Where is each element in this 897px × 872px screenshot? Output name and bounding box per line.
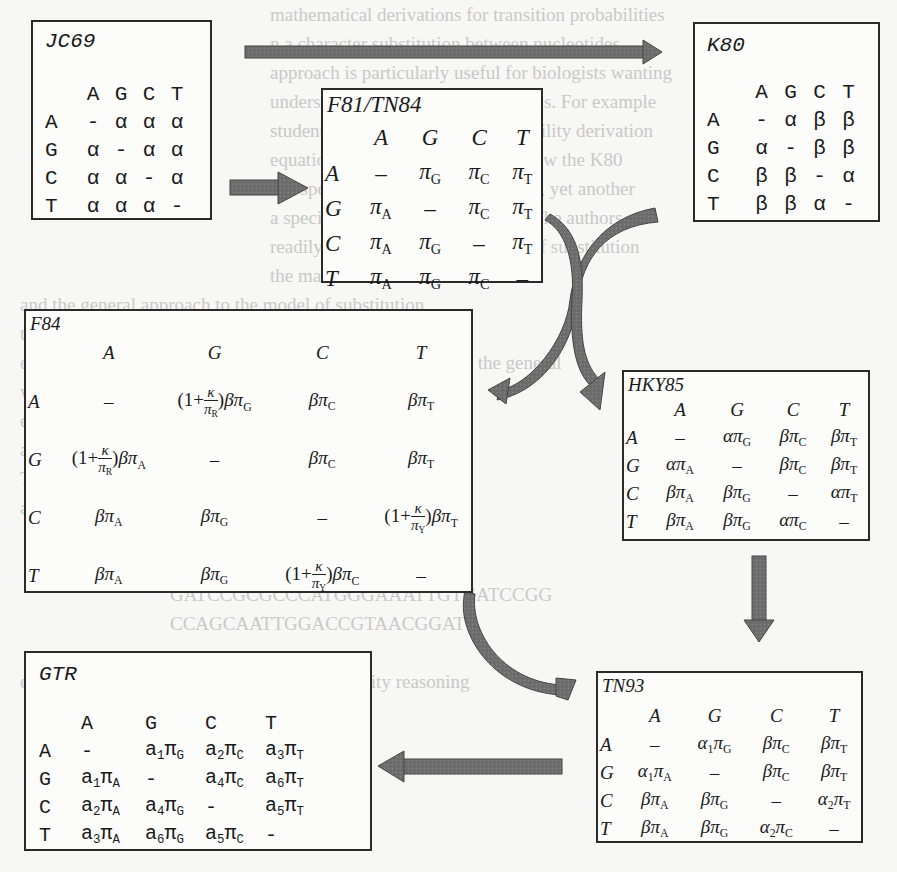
matrix-cell: βπA [652,508,708,536]
matrix-cell: – [708,452,766,480]
matrix-cell: – [273,489,371,547]
matrix-cell: πC [455,156,504,191]
matrix-cell: α [747,134,776,162]
matrix-cell: βπA [62,489,156,547]
matrix-cell: α2πT [807,787,861,815]
col-header: A [81,709,145,737]
matrix-cell: (1+κπY)βπT [371,489,471,547]
matrix-title: F81/TN84 [327,92,422,118]
matrix-cell: πC [455,191,504,226]
matrix-cell: – [626,731,684,759]
row-header: G [45,136,79,164]
matrix-cell: πG [406,156,455,191]
row-header: G [707,134,747,162]
row-header: G [28,431,62,489]
matrix-cell: a4πC [205,765,265,793]
matrix-cell: βπC [766,424,820,452]
matrix-cell: – [62,373,156,431]
col-header: A [652,396,708,424]
matrix-cell: a2πA [81,793,145,821]
matrix-cell: - [79,108,107,136]
row-header: C [707,162,747,190]
matrix-cell: α [107,108,135,136]
matrix-cell: βπT [820,452,868,480]
matrix-cell: βπA [652,480,708,508]
col-header: T [820,396,868,424]
col-header: G [708,396,766,424]
matrix-cell: - [145,765,205,793]
row-header: T [28,547,62,605]
row-header: T [45,192,79,220]
matrix-cell: β [805,134,834,162]
arrow-hky85-to-tn93 [744,556,774,642]
matrix-cell: βπG [156,547,274,605]
row-header: G [39,765,81,793]
row-header: G [600,759,626,787]
matrix-box-hky85: HKY85 A G C T A – απG βπC βπT G απA – βπ… [622,370,870,541]
matrix-cell: α [79,192,107,220]
matrix-cell: βπT [820,424,868,452]
col-header: G [776,78,805,106]
row-header: A [707,106,747,134]
col-header: C [205,709,265,737]
matrix-cell: βπC [766,452,820,480]
col-header: A [626,701,684,731]
matrix-box-jc69: JC69 A G C T A - α α α G α - α α C α α -… [31,20,212,220]
matrix-cell: α [834,162,863,190]
matrix-cell: α [107,192,135,220]
arrow-jc69-to-k80 [245,40,662,64]
col-header: C [455,120,504,156]
matrix-cell: a6πG [145,821,205,849]
matrix-cell: a6πT [265,765,325,793]
matrix-cell: απC [766,508,820,536]
matrix-box-f84: F84 A G C T A – (1+κπR)βπG βπC βπT G (1+… [24,309,473,593]
matrix-title: F84 [30,313,61,335]
rate-matrix: A G C T A - a1πG a2πC a3πT G a1πA - a4πC… [39,709,325,849]
matrix-cell: πC [455,261,504,296]
col-header: T [265,709,325,737]
row-header: A [600,731,626,759]
matrix-cell: - [834,190,863,218]
col-header: A [747,78,776,106]
matrix-cell: βπT [807,731,861,759]
matrix-cell: a3πA [81,821,145,849]
matrix-cell: απA [652,452,708,480]
matrix-cell: α [79,164,107,192]
col-header: G [156,333,274,373]
matrix-title: TN93 [602,675,644,697]
matrix-cell: α [135,108,163,136]
col-header: C [135,80,163,108]
matrix-cell: βπT [807,759,861,787]
matrix-cell: πG [406,261,455,296]
matrix-cell: α2πC [745,815,807,843]
matrix-cell: πT [504,156,541,191]
matrix-cell: βπT [371,373,471,431]
matrix-cell: - [135,164,163,192]
matrix-box-k80: K80 A G C T A - α β β G α - β β C β β - … [693,22,880,222]
matrix-cell: πT [504,191,541,226]
col-header: G [145,709,205,737]
matrix-cell: (1+κπR)βπA [62,431,156,489]
matrix-box-gtr: GTR A G C T A - a1πG a2πC a3πT G a1πA - … [24,651,372,851]
rate-matrix: A G C T A – α1πG βπC βπT G α1πA – βπC βπ… [600,701,861,843]
col-header: A [79,80,107,108]
matrix-cell: α [135,192,163,220]
matrix-title: JC69 [45,30,95,53]
col-header: T [371,333,471,373]
matrix-cell: α [163,164,191,192]
row-header: T [626,508,652,536]
matrix-cell: βπA [62,547,156,605]
matrix-cell: – [766,480,820,508]
row-header: T [325,261,356,296]
matrix-cell: β [834,134,863,162]
matrix-cell: πG [406,226,455,261]
col-header: A [356,120,405,156]
matrix-cell: - [81,737,145,765]
matrix-cell: α1πG [684,731,746,759]
matrix-cell: a5πC [205,821,265,849]
row-header: C [39,793,81,821]
matrix-cell: α1πA [626,759,684,787]
matrix-cell: - [747,106,776,134]
matrix-cell: πA [356,261,405,296]
matrix-cell: α [79,136,107,164]
